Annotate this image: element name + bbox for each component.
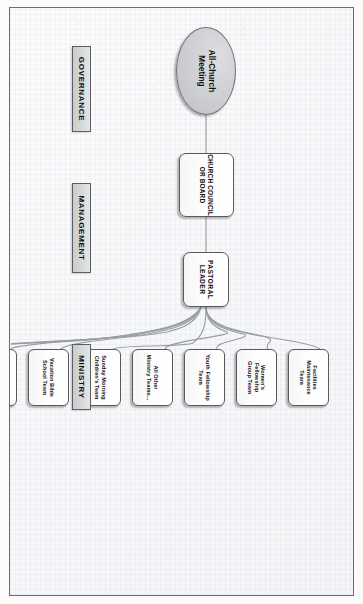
node-church-council-label: CHURCH COUNCILOR BOARD (198, 154, 213, 216)
node-ministry-team-second-service-worship[interactable]: 2nd ServiceWorship Team (9, 349, 17, 406)
edge-pastoral-to-mission (11, 307, 201, 349)
node-ministry-team-youth-fellowship-label: Youth FellowshipTeam (197, 354, 210, 401)
node-pastoral-leader[interactable]: PASTORALLEADER (183, 252, 229, 307)
node-ministry-team-vacation-bible-school[interactable]: Vacation BibleSchool Team (28, 349, 69, 406)
node-ministry-team-youth-fellowship[interactable]: Youth FellowshipTeam (184, 349, 225, 406)
node-ministry-team-sunday-morning-childrens-label: Sunday MorningChildren's Team (93, 355, 106, 400)
node-all-church-meeting-label: All-ChurchMeeting (196, 49, 216, 91)
lane-label-ministry: MINISTRY (72, 344, 91, 410)
edge-pastoral-to-womens (206, 307, 271, 349)
node-ministry-team-facilities-maintenance-label: Facilities MaintenanceTeam (298, 352, 318, 403)
node-ministry-team-facilities-maintenance[interactable]: Facilities MaintenanceTeam (288, 349, 329, 406)
edge-pastoral-to-sunday (113, 307, 206, 349)
scanned-page: ~ ~ ~ ~ ~ ~ ~ (0, 0, 363, 604)
node-ministry-team-all-other-ministry-teams-label: All OtherMinistry Teams... (145, 354, 158, 400)
node-ministry-team-all-other-ministry-teams[interactable]: All OtherMinistry Teams... (132, 349, 173, 406)
org-chart-canvas: All-ChurchMeeting CHURCH COUNCILOR BOARD… (11, 9, 353, 595)
document-page: ~ ~ ~ ~ ~ ~ ~ (9, 7, 354, 596)
lane-label-governance: GOVERNANCE (72, 46, 91, 132)
node-church-council[interactable]: CHURCH COUNCILOR BOARD (179, 153, 234, 217)
node-ministry-team-vacation-bible-school-label: Vacation BibleSchool Team (41, 358, 54, 397)
node-all-church-meeting[interactable]: All-ChurchMeeting (176, 27, 236, 115)
lane-label-management: MANAGEMENT (72, 183, 91, 273)
node-pastoral-leader-label: PASTORALLEADER (197, 259, 213, 298)
node-ministry-team-womens-fellowship-group-label: Women's FellowshipGroup Team (246, 352, 266, 403)
node-ministry-team-womens-fellowship-group[interactable]: Women's FellowshipGroup Team (236, 349, 277, 406)
